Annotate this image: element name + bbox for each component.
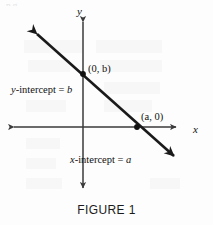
y-intercept-desc-value: b: [67, 84, 72, 95]
x-intercept-point: [134, 124, 140, 130]
y-intercept-point: [80, 71, 86, 77]
x-intercept-desc-value: a: [126, 154, 131, 165]
axis-label-x: x: [193, 124, 198, 135]
figure-container: p g: [0, 0, 213, 225]
y-intercept-description: y-intercept = b: [11, 85, 72, 96]
point-label-y-intercept: (0, b): [88, 64, 111, 75]
figure-caption: FIGURE 1: [0, 203, 213, 217]
x-intercept-description: x-intercept = a: [70, 155, 131, 166]
y-intercept-desc-text: -intercept =: [16, 84, 67, 95]
axis-label-y: y: [77, 6, 82, 17]
x-intercept-desc-text: -intercept =: [75, 154, 126, 165]
point-label-x-intercept: (a, 0): [141, 112, 163, 123]
coordinate-plane-graphic: [0, 0, 213, 225]
